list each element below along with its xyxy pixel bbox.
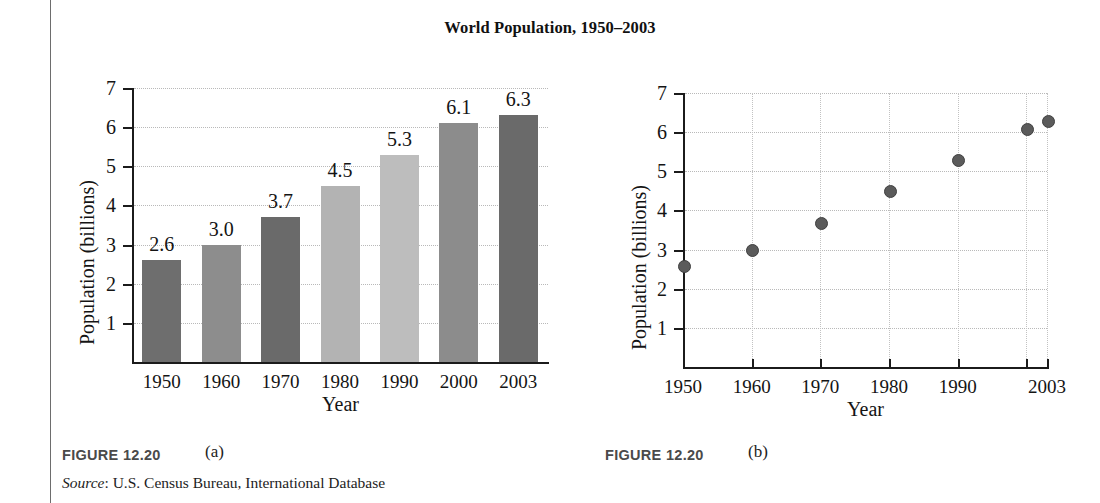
figure-b-caption-part: (b) (748, 442, 768, 462)
bar-chart-y-tick-label: 1 (84, 313, 116, 333)
scatter-chart-x-tick-label: 1950 (651, 377, 715, 396)
bar-chart-y-tick (123, 127, 134, 129)
figure-a-source: Source: U.S. Census Bureau, Internationa… (62, 474, 385, 492)
scatter-chart-x-tick-label: 2003 (1015, 377, 1079, 396)
bar-value-label: 6.3 (488, 89, 548, 109)
figure-a-source-text: : U.S. Census Bureau, International Data… (104, 474, 385, 491)
bar-chart-x-tick-label: 1950 (130, 372, 194, 391)
bar-chart-x-axis-line (132, 362, 549, 364)
scatter-chart-gridline-horizontal (685, 171, 1047, 172)
scatter-chart-y-tick-label: 3 (635, 240, 667, 260)
scatter-point (815, 217, 828, 230)
scatter-chart-gridline-horizontal (685, 210, 1047, 211)
bar-chart-y-tick (123, 88, 134, 90)
scatter-chart-y-tick-label: 5 (635, 161, 667, 181)
scatter-chart-gridline-horizontal (685, 289, 1047, 290)
bar (142, 260, 181, 362)
scatter-chart-x-tick (683, 359, 685, 369)
scatter-chart-gridline-vertical (820, 93, 821, 367)
bar (261, 217, 300, 362)
bar-value-label: 4.5 (310, 160, 370, 180)
figure-a-source-prefix: Source (62, 474, 104, 491)
scatter-chart-y-tick (674, 289, 685, 291)
bar-chart-y-tick-label: 3 (84, 235, 116, 255)
bar (202, 245, 241, 362)
figure-a-caption-part: (a) (205, 442, 224, 462)
bar-chart-x-tick-label: 1970 (249, 372, 313, 391)
scatter-chart-y-tick (674, 171, 685, 173)
bar-chart-y-tick (123, 166, 134, 168)
scatter-chart-x-tick-label: 1980 (857, 377, 921, 396)
bar-chart-gridline (134, 127, 548, 128)
scatter-chart-gridline-vertical (1047, 93, 1048, 367)
figure-b-caption-label: FIGURE 12.20 (605, 447, 704, 463)
scatter-chart-x-axis-line (683, 367, 1048, 369)
scatter-chart-gridline-vertical (958, 93, 959, 367)
bar-chart-x-tick-label: 2000 (427, 372, 491, 391)
bar-chart-y-tick-label: 2 (84, 274, 116, 294)
bar-chart-x-tick-label: 1980 (308, 372, 372, 391)
scatter-chart-y-tick (674, 210, 685, 212)
scatter-chart-world-population: Population (billions) 1234567 1950196019… (600, 0, 1100, 430)
scatter-chart-gridline-horizontal (685, 328, 1047, 329)
scatter-chart-x-tick (958, 359, 960, 369)
scatter-chart-y-tick-label: 1 (635, 318, 667, 338)
bar-chart-world-population: Population (billions) 1234567 2.63.03.74… (0, 0, 560, 430)
bar-value-label: 3.7 (251, 191, 311, 211)
scatter-chart-gridline-horizontal (685, 132, 1047, 133)
bar-value-label: 6.1 (429, 97, 489, 117)
bar (499, 115, 538, 362)
bar (439, 123, 478, 362)
scatter-chart-gridline-vertical (752, 93, 753, 367)
scatter-chart-y-tick-label: 4 (635, 200, 667, 220)
scatter-point (1042, 115, 1055, 128)
scatter-chart-y-tick-label: 2 (635, 279, 667, 299)
scatter-chart-y-tick (674, 93, 685, 95)
bar (380, 155, 419, 362)
scatter-chart-y-tick (674, 328, 685, 330)
scatter-chart-gridline-horizontal (685, 250, 1047, 251)
bar-chart-y-tick-label: 4 (84, 195, 116, 215)
bar-chart-gridline (134, 88, 548, 89)
bar-chart-y-tick (123, 284, 134, 286)
bar-chart-x-tick-label: 1990 (367, 372, 431, 391)
bar-value-label: 5.3 (369, 129, 429, 149)
scatter-chart-x-tick-label: 1970 (788, 377, 852, 396)
scatter-chart-gridline-horizontal (685, 93, 1047, 94)
scatter-chart-x-tick (1026, 359, 1028, 369)
scatter-chart-x-tick-label: 1960 (720, 377, 784, 396)
bar-chart-x-tick-label: 2003 (486, 372, 550, 391)
bar-chart-y-tick-label: 7 (84, 78, 116, 98)
bar-value-label: 2.6 (132, 234, 192, 254)
bar-value-label: 3.0 (191, 219, 251, 239)
figure-a-caption-label: FIGURE 12.20 (62, 447, 161, 463)
bar-chart-y-tick-label: 6 (84, 117, 116, 137)
scatter-chart-x-tick (820, 359, 822, 369)
scatter-chart-x-axis-title: Year (683, 398, 1048, 421)
scatter-chart-y-tick-label: 7 (635, 83, 667, 103)
bar (321, 186, 360, 362)
scatter-point (884, 185, 897, 198)
scatter-point (1021, 123, 1034, 136)
bar-chart-x-axis-title: Year (132, 393, 549, 416)
scatter-chart-x-tick-label: 1990 (926, 377, 990, 396)
scatter-chart-gridline-vertical (889, 93, 890, 367)
scatter-chart-x-tick (1047, 359, 1049, 369)
scatter-chart-x-tick (889, 359, 891, 369)
bar-chart-x-tick-label: 1960 (189, 372, 253, 391)
scatter-chart-y-tick (674, 250, 685, 252)
scatter-chart-y-tick-label: 6 (635, 122, 667, 142)
scatter-chart-y-tick (674, 132, 685, 134)
bar-chart-y-tick (123, 205, 134, 207)
scatter-point (678, 260, 691, 273)
bar-chart-y-tick-label: 5 (84, 156, 116, 176)
bar-chart-y-tick (123, 323, 134, 325)
scatter-chart-x-tick (752, 359, 754, 369)
scatter-chart-plot-area (683, 93, 1047, 367)
